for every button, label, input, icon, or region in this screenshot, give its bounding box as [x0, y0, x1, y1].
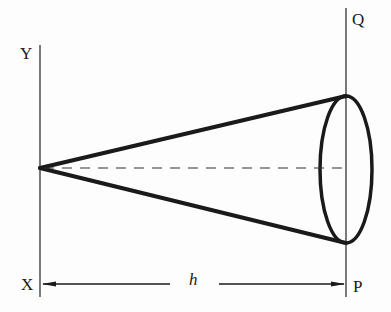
- cone-lower-slant-edge: [40, 168, 346, 243]
- cone-upper-slant-edge: [40, 96, 346, 168]
- label-height-h: h: [189, 271, 198, 288]
- label-y: Y: [20, 45, 32, 62]
- label-x: X: [21, 276, 33, 293]
- diagram-svg: [0, 0, 391, 312]
- label-q: Q: [352, 11, 364, 28]
- cone-diagram: Y X Q P h: [0, 0, 391, 312]
- label-p: P: [353, 278, 362, 295]
